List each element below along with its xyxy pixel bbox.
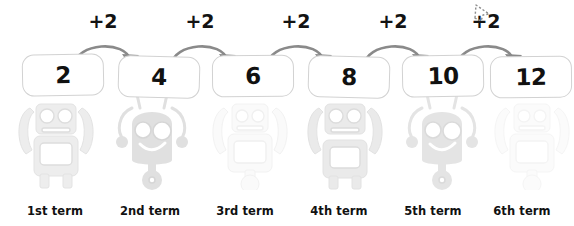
term-value-4: 8 [341, 65, 357, 88]
term-bubble-6[interactable]: 12 [490, 56, 572, 99]
step-label-2: +2 [157, 12, 243, 31]
term-value-5: 10 [427, 64, 458, 88]
term-bubble-3[interactable]: 6 [212, 55, 294, 98]
term-label-4: 4th term [291, 204, 387, 218]
term-bubble-5[interactable]: 10 [402, 54, 485, 98]
step-label-4: +2 [350, 12, 436, 31]
term-label-5: 5th term [385, 204, 481, 218]
term-value-6: 12 [515, 65, 546, 88]
term-value-3: 6 [245, 64, 261, 87]
mouse-pointer-marker [472, 2, 496, 24]
term-label-1: 1st term [7, 204, 103, 218]
term-bubble-2[interactable]: 4 [117, 55, 200, 99]
term-value-2: 4 [151, 65, 167, 88]
step-label-3: +2 [253, 12, 339, 31]
term-bubble-1[interactable]: 2 [22, 53, 105, 97]
term-value-1: 2 [55, 63, 71, 86]
term-label-2: 2nd term [102, 204, 198, 218]
term-label-3: 3rd term [197, 204, 293, 218]
term-bubble-4[interactable]: 8 [307, 55, 390, 99]
term-label-6: 6th term [474, 204, 570, 218]
step-label-1: +2 [60, 12, 146, 31]
